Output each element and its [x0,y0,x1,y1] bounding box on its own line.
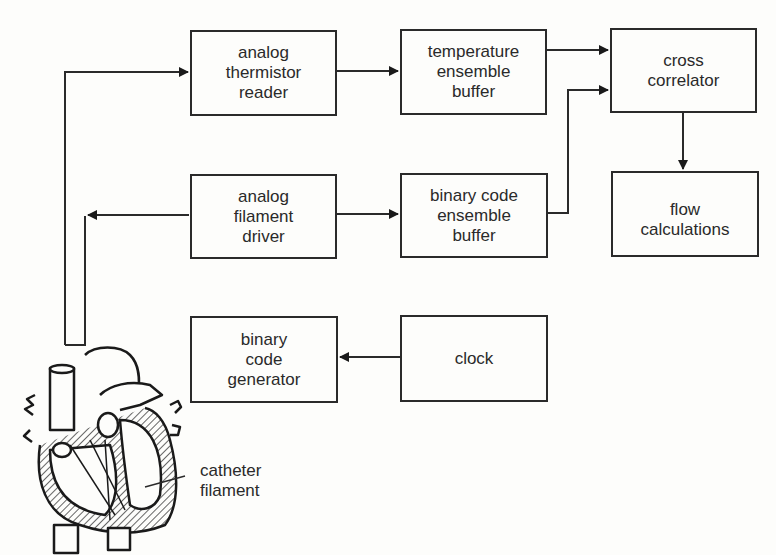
analog-thermistor-reader-block: analog thermistor reader [190,30,337,116]
block-label: flow calculations [641,188,730,240]
clock-block: clock [400,315,548,402]
block-label: cross correlator [648,51,720,91]
block-label: clock [455,349,494,369]
binary-code-ensemble-buffer-block: binary code ensemble buffer [400,173,548,258]
block-label: analog filament driver [234,187,294,247]
arrow-heart-to-thermistor [65,72,188,345]
catheter-filament-label: catheter filament [200,461,261,501]
block-label: temperature ensemble buffer [428,42,520,102]
line-driver-down-to-heart [65,216,85,345]
binary-code-generator-block: binary code generator [190,316,338,403]
cross-correlator-block: cross correlator [610,28,757,113]
flow-calculations-block: flow calculations [611,171,759,257]
analog-filament-driver-block: analog filament driver [190,174,337,259]
block-label: binary code generator [228,330,301,390]
heart-illustration-icon [24,348,181,554]
diagram-canvas: analog thermistor reader temperature ens… [0,0,776,555]
block-label: analog thermistor reader [226,43,302,103]
arrow-binarybuffer-to-correlator [548,90,608,213]
block-label: binary code ensemble buffer [430,186,518,246]
temperature-ensemble-buffer-block: temperature ensemble buffer [400,29,547,115]
